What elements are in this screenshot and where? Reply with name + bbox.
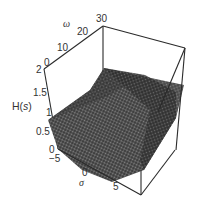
z-tick-0.5: 0.5	[36, 126, 50, 137]
omega-tick-0: 0	[44, 57, 50, 68]
sigma-tick-minus5: −5	[49, 153, 61, 164]
surface-plot: ω 0 10 20 30 2 1.5 1 0.5 0 H(s) −5 0 σ 5	[0, 0, 198, 199]
omega-axis-line	[44, 26, 103, 69]
z-tick-1: 1	[46, 107, 52, 118]
omega-tick-20: 20	[77, 26, 89, 37]
sigma-tick-5: 5	[113, 181, 119, 192]
z-tick-1.5: 1.5	[33, 87, 47, 98]
top-back-edge	[103, 26, 185, 48]
sigma-label: σ	[79, 177, 85, 188]
omega-tick-10: 10	[57, 42, 69, 53]
h-label: H(s)	[12, 100, 32, 112]
z-tick-2: 2	[36, 64, 42, 75]
omega-label: ω	[63, 18, 70, 29]
omega-tick-30: 30	[96, 13, 108, 24]
